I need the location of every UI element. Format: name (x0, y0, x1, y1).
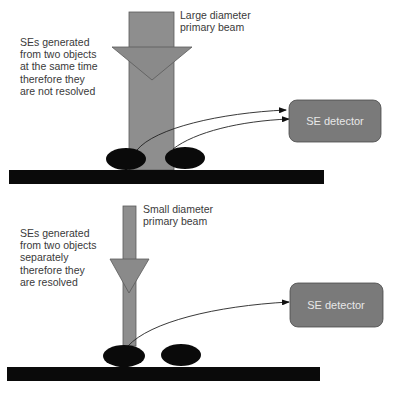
small-beam-label-line: Small diameter (143, 203, 213, 215)
large-beam-description: SEs generated from two objects at the sa… (20, 36, 98, 97)
se-detector-label: SE detector (306, 115, 364, 127)
substrate (7, 367, 320, 381)
large-primary-beam (129, 12, 174, 170)
object-right (165, 147, 205, 169)
large-beam-label-line: primary beam (180, 21, 251, 33)
substrate (9, 170, 324, 184)
description-line: from two objects (20, 48, 98, 60)
description-line: are resolved (20, 276, 96, 288)
large-beam-label: Large diameter primary beam (180, 9, 251, 33)
description-line: SEs generated (20, 36, 98, 48)
description-line: are not resolved (20, 85, 98, 97)
large-beam-arrow-head (112, 47, 192, 80)
description-line: SEs generated (20, 227, 96, 239)
se-trajectory (128, 302, 289, 346)
object-right (161, 344, 201, 366)
description-line: separately (20, 251, 96, 263)
small-beam-label-line: primary beam (143, 215, 213, 227)
object-left (106, 148, 146, 170)
small-beam-label: Small diameter primary beam (143, 203, 213, 227)
se-detector-label: SE detector (307, 299, 365, 311)
description-line: therefore they (20, 73, 98, 85)
small-beam-description: SEs generated from two objects separatel… (20, 227, 96, 288)
description-line: therefore they (20, 264, 96, 276)
small-beam-arrow-head (110, 259, 149, 293)
description-line: at the same time (20, 60, 98, 72)
large-beam-label-line: Large diameter (180, 9, 251, 21)
description-line: from two objects (20, 239, 96, 251)
object-left (103, 345, 145, 367)
